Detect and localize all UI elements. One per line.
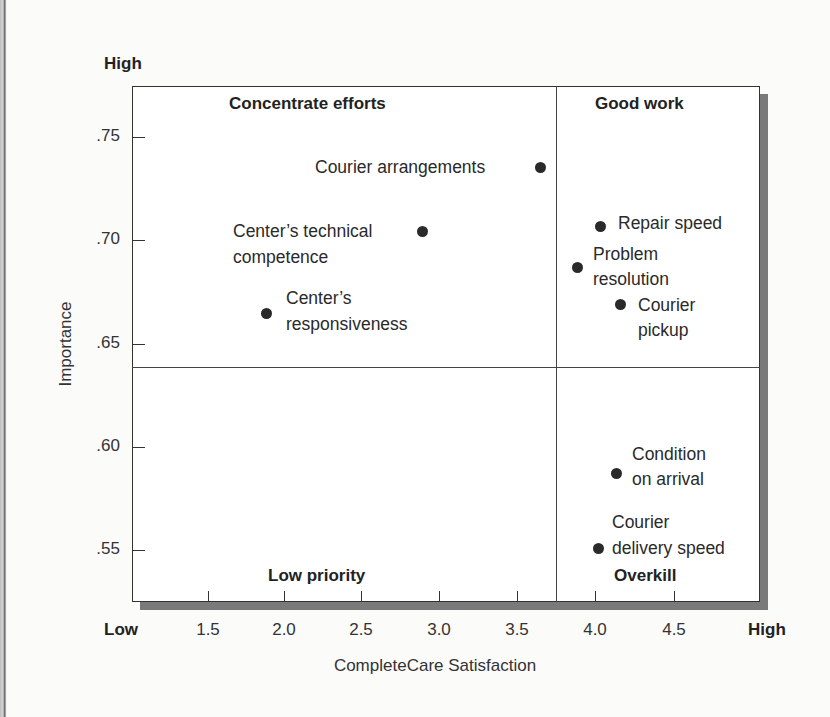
x-tick-label: 3.0 — [409, 620, 469, 640]
point-label: responsiveness — [286, 313, 408, 335]
y-tick — [133, 344, 145, 345]
y-tick-label: .75 — [60, 126, 120, 146]
data-point — [593, 543, 604, 554]
quadrant-title-low-priority: Low priority — [268, 566, 365, 586]
point-label: resolution — [593, 268, 669, 290]
y-tick — [133, 240, 145, 241]
x-tick — [208, 591, 209, 602]
quadrant-title-good-work: Good work — [595, 94, 684, 114]
y-tick-label: .55 — [60, 539, 120, 559]
point-label: Courier — [638, 294, 695, 316]
quadrant-divider-vertical — [556, 86, 557, 602]
quadrant-title-overkill: Overkill — [614, 566, 676, 586]
page-edge — [0, 0, 7, 717]
y-tick-label: .60 — [60, 436, 120, 456]
x-tick-label: 4.0 — [565, 620, 625, 640]
y-axis-high-label: High — [104, 54, 142, 74]
data-point — [572, 262, 583, 273]
data-point — [261, 308, 272, 319]
point-label: Problem — [593, 243, 658, 265]
data-point — [595, 221, 606, 232]
point-label: on arrival — [632, 468, 704, 490]
point-label: Center’s technical — [233, 220, 372, 242]
point-label: Courier — [612, 511, 669, 533]
point-label: Repair speed — [618, 212, 722, 234]
x-tick — [284, 591, 285, 602]
x-tick-label: 1.5 — [178, 620, 238, 640]
y-tick — [133, 137, 145, 138]
x-axis-title: CompleteCare Satisfaction — [0, 656, 830, 676]
y-tick-label: .70 — [60, 229, 120, 249]
point-label: Condition — [632, 443, 706, 465]
x-tick — [361, 591, 362, 602]
x-tick — [595, 591, 596, 602]
x-tick — [674, 591, 675, 602]
x-tick — [517, 591, 518, 602]
data-point — [417, 226, 428, 237]
plot-shadow-bottom — [140, 602, 768, 610]
x-tick — [439, 591, 440, 602]
x-tick-label: 2.5 — [331, 620, 391, 640]
data-point — [615, 299, 626, 310]
data-point — [611, 468, 622, 479]
y-axis-title: Importance — [56, 301, 76, 386]
point-label: pickup — [638, 319, 689, 341]
x-tick-label: 2.0 — [254, 620, 314, 640]
x-tick-label: 3.5 — [487, 620, 547, 640]
point-label: competence — [233, 246, 328, 268]
x-tick-label: 4.5 — [644, 620, 704, 640]
y-tick — [133, 550, 145, 551]
plot-shadow-right — [760, 94, 768, 610]
data-point — [535, 162, 546, 173]
y-tick — [133, 447, 145, 448]
point-label: delivery speed — [612, 537, 725, 559]
x-axis-low-label: Low — [104, 620, 138, 640]
x-axis-high-label: High — [748, 620, 786, 640]
quadrant-title-concentrate-efforts: Concentrate efforts — [229, 94, 386, 114]
point-label: Center’s — [286, 287, 352, 309]
point-label: Courier arrangements — [315, 156, 485, 178]
quadrant-divider-horizontal — [132, 367, 760, 368]
